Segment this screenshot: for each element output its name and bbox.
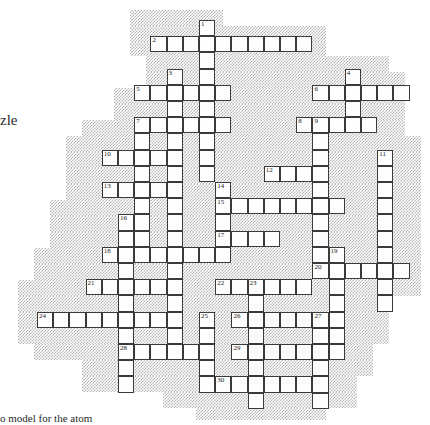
crossword-cell[interactable] — [312, 231, 328, 247]
crossword-cell[interactable] — [199, 247, 215, 263]
crossword-cell[interactable] — [377, 263, 393, 279]
crossword-cell[interactable] — [199, 69, 215, 85]
crossword-cell[interactable] — [199, 36, 215, 52]
crossword-cell[interactable] — [150, 182, 166, 198]
crossword-cell[interactable] — [264, 344, 280, 360]
crossword-cell[interactable] — [167, 182, 183, 198]
crossword-cell[interactable] — [167, 166, 183, 182]
crossword-cell[interactable] — [167, 263, 183, 279]
crossword-cell[interactable] — [296, 312, 312, 328]
crossword-cell[interactable] — [199, 101, 215, 117]
crossword-cell-numbered-20[interactable]: 20 — [312, 263, 328, 279]
crossword-cell[interactable] — [377, 198, 393, 214]
crossword-cell-numbered-3[interactable]: 3 — [167, 69, 183, 85]
crossword-cell[interactable] — [215, 36, 231, 52]
crossword-cell[interactable] — [345, 263, 361, 279]
crossword-cell[interactable] — [167, 231, 183, 247]
crossword-cell[interactable] — [312, 214, 328, 230]
crossword-cell-numbered-23[interactable]: 23 — [248, 279, 264, 295]
crossword-cell[interactable] — [231, 279, 247, 295]
crossword-cell[interactable] — [248, 231, 264, 247]
crossword-cell[interactable] — [345, 85, 361, 101]
crossword-cell[interactable] — [167, 247, 183, 263]
crossword-cell[interactable] — [167, 198, 183, 214]
crossword-cell[interactable] — [248, 312, 264, 328]
crossword-cell[interactable] — [248, 198, 264, 214]
crossword-cell[interactable] — [183, 117, 199, 133]
crossword-cell[interactable] — [264, 231, 280, 247]
crossword-cell[interactable] — [215, 117, 231, 133]
crossword-cell-numbered-14[interactable]: 14 — [215, 182, 231, 198]
crossword-cell[interactable] — [312, 247, 328, 263]
crossword-cell[interactable] — [167, 295, 183, 311]
crossword-cell-numbered-11[interactable]: 11 — [377, 150, 393, 166]
crossword-cell[interactable] — [102, 312, 118, 328]
crossword-cell[interactable] — [134, 166, 150, 182]
crossword-cell[interactable] — [150, 279, 166, 295]
crossword-cell[interactable] — [150, 85, 166, 101]
crossword-cell[interactable] — [296, 36, 312, 52]
crossword-cell[interactable] — [377, 295, 393, 311]
crossword-cell[interactable] — [312, 182, 328, 198]
crossword-cell[interactable] — [248, 36, 264, 52]
crossword-cell-numbered-10[interactable]: 10 — [102, 150, 118, 166]
crossword-cell-numbered-27[interactable]: 27 — [312, 312, 328, 328]
crossword-cell[interactable] — [118, 150, 134, 166]
crossword-cell[interactable] — [329, 263, 345, 279]
crossword-cell-numbered-9[interactable]: 9 — [312, 117, 328, 133]
crossword-cell[interactable] — [361, 117, 377, 133]
crossword-cell[interactable] — [134, 182, 150, 198]
crossword-cell[interactable] — [377, 279, 393, 295]
crossword-cell[interactable] — [199, 376, 215, 392]
crossword-cell[interactable] — [312, 166, 328, 182]
crossword-cell[interactable] — [215, 214, 231, 230]
crossword-cell[interactable] — [134, 231, 150, 247]
crossword-cell[interactable] — [167, 344, 183, 360]
crossword-cell[interactable] — [69, 312, 85, 328]
crossword-cell[interactable] — [231, 198, 247, 214]
crossword-cell[interactable] — [377, 247, 393, 263]
crossword-cell[interactable] — [280, 344, 296, 360]
crossword-cell[interactable] — [134, 150, 150, 166]
crossword-cell[interactable] — [134, 198, 150, 214]
crossword-cell[interactable] — [377, 214, 393, 230]
crossword-cell[interactable] — [118, 263, 134, 279]
crossword-cell[interactable] — [393, 85, 409, 101]
crossword-cell[interactable] — [134, 344, 150, 360]
crossword-cell[interactable] — [167, 117, 183, 133]
crossword-cell-numbered-7[interactable]: 7 — [134, 117, 150, 133]
crossword-cell-numbered-25[interactable]: 25 — [199, 312, 215, 328]
crossword-cell[interactable] — [167, 133, 183, 149]
crossword-cell[interactable] — [199, 52, 215, 68]
crossword-cell[interactable] — [280, 198, 296, 214]
crossword-cell[interactable] — [199, 328, 215, 344]
crossword-cell[interactable] — [118, 231, 134, 247]
crossword-cell[interactable] — [280, 376, 296, 392]
crossword-cell[interactable] — [150, 150, 166, 166]
crossword-cell-numbered-13[interactable]: 13 — [102, 182, 118, 198]
crossword-cell[interactable] — [312, 328, 328, 344]
crossword-cell[interactable] — [361, 263, 377, 279]
crossword-cell[interactable] — [199, 150, 215, 166]
crossword-cell[interactable] — [134, 133, 150, 149]
crossword-cell[interactable] — [393, 263, 409, 279]
crossword-cell[interactable] — [248, 344, 264, 360]
crossword-cell-numbered-5[interactable]: 5 — [134, 85, 150, 101]
crossword-cell-numbered-4[interactable]: 4 — [345, 69, 361, 85]
crossword-cell[interactable] — [118, 376, 134, 392]
crossword-cell[interactable] — [118, 312, 134, 328]
crossword-cell[interactable] — [183, 85, 199, 101]
crossword-cell[interactable] — [248, 328, 264, 344]
crossword-cell[interactable] — [312, 376, 328, 392]
crossword-cell[interactable] — [377, 166, 393, 182]
crossword-cell[interactable] — [183, 36, 199, 52]
crossword-cell[interactable] — [118, 328, 134, 344]
crossword-cell[interactable] — [199, 117, 215, 133]
crossword-cell-numbered-12[interactable]: 12 — [264, 166, 280, 182]
crossword-cell[interactable] — [118, 182, 134, 198]
crossword-cell-numbered-21[interactable]: 21 — [86, 279, 102, 295]
crossword-cell[interactable] — [264, 36, 280, 52]
crossword-cell[interactable] — [86, 312, 102, 328]
crossword-cell[interactable] — [199, 344, 215, 360]
crossword-cell[interactable] — [118, 360, 134, 376]
